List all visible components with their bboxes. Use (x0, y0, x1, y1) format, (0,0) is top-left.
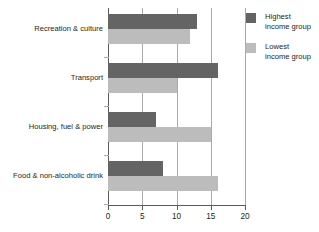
category-label: Transport (0, 73, 103, 82)
category-label: Recreation & culture (0, 24, 103, 33)
bar (108, 78, 177, 93)
bar (108, 63, 218, 78)
bar (108, 161, 163, 176)
gridline (245, 8, 246, 205)
x-tick-label: 0 (93, 212, 123, 221)
legend-label-lowest: Lowest income group (265, 42, 311, 61)
bar (108, 112, 156, 127)
bar (108, 127, 211, 142)
plot-area (108, 8, 245, 205)
bar (108, 29, 190, 44)
legend-swatch-lowest (246, 43, 256, 53)
x-axis-tick (177, 206, 178, 210)
x-tick-label: 15 (196, 212, 226, 221)
legend-label-highest: Highest income group (265, 12, 311, 31)
category-label: Housing, fuel & power (0, 122, 103, 131)
category-label: Food & non-alcoholic drink (0, 171, 103, 180)
x-axis-tick (211, 206, 212, 210)
legend-item-highest[interactable]: Highest income group (246, 12, 311, 31)
legend-label-highest-line2: income group (265, 22, 311, 32)
bar-chart: Recreation & cultureTransportHousing, fu… (0, 0, 319, 232)
x-axis-tick (245, 206, 246, 210)
legend-label-lowest-line2: income group (265, 52, 311, 62)
x-tick-label: 5 (127, 212, 157, 221)
x-tick-label: 10 (162, 212, 192, 221)
bar (108, 176, 218, 191)
legend-label-lowest-line1: Lowest (265, 42, 311, 52)
legend-swatch-highest (246, 13, 256, 23)
x-axis-tick (142, 206, 143, 210)
bar (108, 14, 197, 29)
legend-label-highest-line1: Highest (265, 12, 311, 22)
legend-item-lowest[interactable]: Lowest income group (246, 42, 311, 61)
x-axis-tick (108, 206, 109, 210)
x-tick-label: 20 (230, 212, 260, 221)
